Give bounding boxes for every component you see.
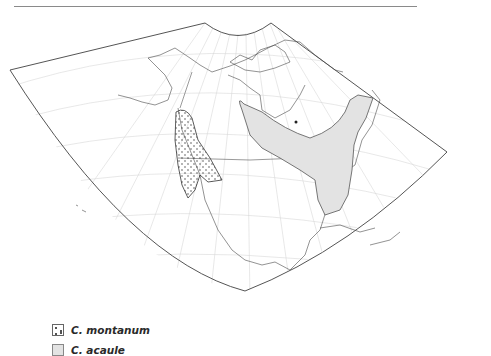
gray-swatch-icon xyxy=(52,344,64,356)
graticule xyxy=(0,23,491,300)
legend-label: C. montanum xyxy=(71,324,150,336)
legend: C. montanum C. acaule xyxy=(52,320,150,356)
legend-item-acaule: C. acaule xyxy=(52,340,150,356)
acaule-range xyxy=(239,95,373,215)
location-dot xyxy=(295,121,298,124)
montanum-range xyxy=(175,110,222,198)
dotted-swatch-icon xyxy=(52,324,64,336)
legend-item-montanum: C. montanum xyxy=(52,320,150,340)
legend-label: C. acaule xyxy=(71,344,125,356)
map-frame xyxy=(10,23,447,291)
range-map xyxy=(0,0,491,300)
